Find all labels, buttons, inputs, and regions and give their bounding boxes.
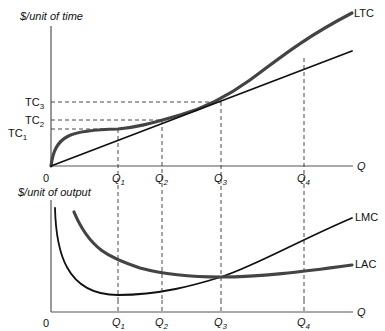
- top-origin-label: 0: [43, 172, 49, 184]
- svg-text:TC1: TC1: [8, 127, 28, 142]
- lmc-curve: [55, 208, 352, 295]
- svg-text:TC3: TC3: [25, 96, 45, 111]
- tc-labels: TC1 TC2 TC3: [8, 96, 45, 142]
- bottom-x-axis-label: Q: [357, 306, 366, 318]
- tc2-label: TC: [25, 114, 40, 126]
- top-q-labels: Q1 Q2 Q3 Q4: [112, 172, 311, 187]
- tc1-label: TC: [8, 127, 23, 139]
- svg-text:Q3: Q3: [214, 316, 228, 331]
- tc3-label: TC: [25, 96, 40, 108]
- svg-text:Q1: Q1: [112, 316, 125, 331]
- bottom-y-axis-label: $/unit of output: [17, 186, 92, 198]
- svg-text:Q4: Q4: [297, 316, 311, 331]
- lac-label: LAC: [355, 258, 376, 270]
- bottom-q-labels: Q1 Q2 Q3 Q4: [112, 316, 311, 331]
- svg-text:TC2: TC2: [25, 114, 45, 129]
- svg-text:Q3: Q3: [214, 172, 228, 187]
- top-y-axis-label: $/unit of time: [19, 10, 83, 22]
- ray-from-origin: [51, 51, 352, 166]
- ltc-curve: [51, 13, 352, 166]
- bottom-origin-label: 0: [43, 317, 49, 329]
- svg-text:Q1: Q1: [112, 172, 125, 187]
- lmc-label: LMC: [355, 211, 378, 223]
- lac-curve: [74, 212, 352, 277]
- svg-text:Q2: Q2: [155, 316, 169, 331]
- top-x-axis-label: Q: [357, 160, 366, 172]
- cost-curves-figure: $/unit of time Q 0 LTC TC1 TC2 TC3 Q1 Q2…: [0, 0, 385, 331]
- ltc-label: LTC: [354, 7, 374, 19]
